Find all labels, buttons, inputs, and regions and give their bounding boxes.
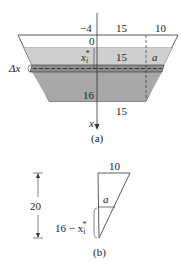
- arrow-up-icon: [36, 173, 40, 178]
- label-a: a: [152, 51, 158, 63]
- water-upper: [24, 48, 172, 65]
- figure-b: 10 20 a 16 − xi* (b): [30, 160, 130, 259]
- label-b-10: 10: [109, 160, 121, 172]
- label-top-15: 15: [116, 22, 128, 34]
- label-mid-15: 15: [116, 51, 128, 63]
- label-delta-x: Δx: [8, 62, 20, 74]
- trough-diagram: −4 15 10 0 xi* 15 a Δx 16 15 x (a) 10 20…: [0, 0, 182, 267]
- caption-a: (a): [91, 132, 104, 145]
- arrow-down-icon: [36, 233, 40, 238]
- label-b-a: a: [103, 193, 109, 205]
- label-16: 16: [83, 89, 95, 101]
- label-top-10: 10: [155, 22, 167, 34]
- caption-b: (b): [93, 246, 106, 259]
- x-axis-arrow-icon: [95, 124, 100, 130]
- lower-brace: [94, 208, 97, 238]
- label-bottom-15: 15: [116, 105, 128, 117]
- label-b-20: 20: [30, 200, 42, 212]
- label-zero: 0: [89, 35, 95, 47]
- label-neg4: −4: [80, 22, 92, 34]
- triangle: [98, 173, 130, 238]
- label-16-minus-xi: 16 − xi*: [55, 220, 86, 236]
- figure-a: −4 15 10 0 xi* 15 a Δx 16 15 x (a): [8, 13, 178, 145]
- label-x-axis: x: [88, 117, 94, 129]
- label-xi-star: xi*: [80, 49, 89, 65]
